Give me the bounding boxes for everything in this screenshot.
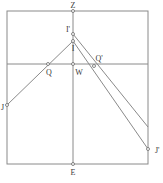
label-j: J xyxy=(1,103,4,112)
point-q-prime xyxy=(93,65,96,68)
point-i-prime xyxy=(72,33,75,36)
label-q-prime: Q' xyxy=(95,54,103,63)
ray-i-to-j-prime xyxy=(73,41,148,149)
label-q: Q xyxy=(46,68,52,77)
diagram-canvas: Z I' I W Q Q' J J' E xyxy=(0,0,163,183)
point-j xyxy=(6,104,9,107)
point-q xyxy=(47,63,50,66)
point-w xyxy=(72,63,75,66)
label-e: E xyxy=(71,168,76,177)
label-z: Z xyxy=(71,1,76,10)
frame-rectangle xyxy=(7,11,148,164)
point-i xyxy=(72,40,75,43)
ray-j-to-i xyxy=(7,41,73,105)
label-j-prime: J' xyxy=(155,146,160,155)
point-j-prime xyxy=(147,148,150,151)
ray-i-prime-to-edge xyxy=(73,34,148,127)
label-i-prime: I' xyxy=(66,25,71,34)
point-e xyxy=(72,163,75,166)
label-i: I xyxy=(72,44,75,53)
label-w: W xyxy=(75,68,83,77)
